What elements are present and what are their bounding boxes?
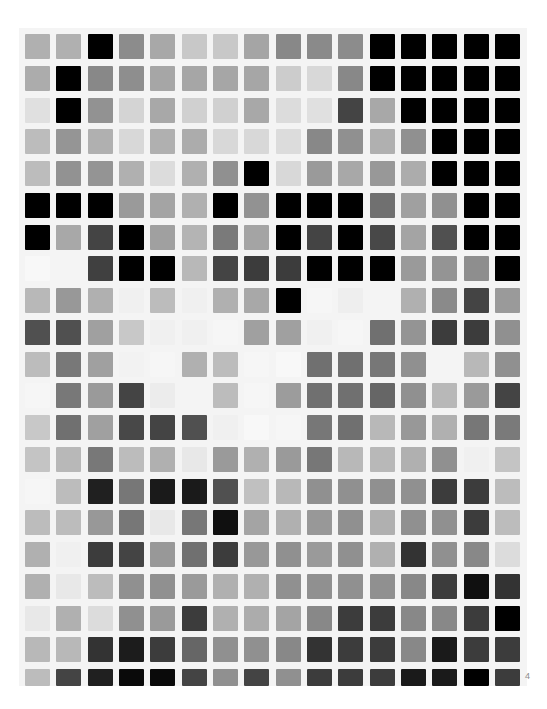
grid-cell (432, 66, 457, 91)
grid-cell (401, 637, 426, 662)
grid-cell (150, 66, 175, 91)
grid-cell (432, 288, 457, 313)
grid-cell (88, 256, 113, 281)
grid-cell (244, 161, 269, 186)
grid-cell (119, 352, 144, 377)
grid-cell (182, 510, 207, 535)
grid-cell (401, 34, 426, 59)
grid-cell (370, 606, 395, 631)
grid-cell (370, 669, 395, 686)
grid-cell (56, 98, 81, 123)
grid-cell (56, 161, 81, 186)
grid-cell (338, 225, 363, 250)
grid-cell (338, 320, 363, 345)
grid-cell (150, 34, 175, 59)
grid-cell (150, 256, 175, 281)
grid-cell (150, 637, 175, 662)
grid-cell (370, 225, 395, 250)
grid-cell (150, 415, 175, 440)
grid-cell (182, 193, 207, 218)
grid-cell (213, 161, 238, 186)
grid-cell (401, 161, 426, 186)
grid-cell (56, 542, 81, 567)
grid-cell (464, 256, 489, 281)
grid-cell (464, 129, 489, 154)
grid-cell (56, 288, 81, 313)
grid-cell (401, 225, 426, 250)
grid-cell (338, 415, 363, 440)
grid-cell (464, 34, 489, 59)
grid-cell (370, 34, 395, 59)
grid-cell (150, 352, 175, 377)
grid-cell (307, 320, 332, 345)
grid-cell (182, 225, 207, 250)
grid-cell (276, 161, 301, 186)
grid-cell (213, 510, 238, 535)
grid-cell (401, 542, 426, 567)
grid-cell (276, 98, 301, 123)
grid-cell (307, 66, 332, 91)
grid-cell (56, 320, 81, 345)
grid-cell (25, 669, 50, 686)
grid-cell (432, 193, 457, 218)
grid-cell (25, 574, 50, 599)
grid-cell (338, 510, 363, 535)
grid-cell (213, 193, 238, 218)
grid-cell (276, 320, 301, 345)
grid-cell (276, 129, 301, 154)
grid-cell (432, 479, 457, 504)
grid-cell (432, 256, 457, 281)
grid-cell (495, 352, 520, 377)
grid-cell (464, 510, 489, 535)
grid-cell (56, 606, 81, 631)
grid-cell (307, 669, 332, 686)
grid-cell (25, 510, 50, 535)
grid-cell (276, 383, 301, 408)
grid-cell (56, 479, 81, 504)
grid-cell (88, 34, 113, 59)
grid-cell (464, 574, 489, 599)
grid-cell (307, 129, 332, 154)
grid-cell (150, 510, 175, 535)
grid-cell (464, 98, 489, 123)
grid-cell (276, 542, 301, 567)
grid-cell (182, 542, 207, 567)
grid-cell (119, 415, 144, 440)
grid-cell (150, 606, 175, 631)
grid-cell (119, 225, 144, 250)
grid-cell (213, 669, 238, 686)
grid-cell (370, 256, 395, 281)
grid-cell (119, 161, 144, 186)
grid-cell (244, 288, 269, 313)
grid-cell (150, 193, 175, 218)
grid-cell (338, 193, 363, 218)
grid-cell (401, 193, 426, 218)
grid-cell (307, 161, 332, 186)
grid-cell (213, 479, 238, 504)
grid-cell (338, 606, 363, 631)
grayscale-square-grid (19, 28, 527, 686)
grid-cell (401, 383, 426, 408)
grid-cell (25, 542, 50, 567)
grid-cell (276, 574, 301, 599)
grid-cell (150, 161, 175, 186)
grid-cell (119, 129, 144, 154)
grid-cell (150, 542, 175, 567)
grid-cell (213, 352, 238, 377)
grid-cell (401, 606, 426, 631)
grid-cell (464, 542, 489, 567)
grid-cell (495, 606, 520, 631)
grid-cell (338, 479, 363, 504)
grid-cell (88, 225, 113, 250)
grid-cell (464, 66, 489, 91)
grid-cell (495, 542, 520, 567)
grid-cell (213, 66, 238, 91)
grid-cell (432, 383, 457, 408)
grid-cell (338, 352, 363, 377)
grid-cell (370, 193, 395, 218)
grid-cell (119, 606, 144, 631)
grid-cell (150, 288, 175, 313)
grid-cell (370, 542, 395, 567)
grid-cell (182, 66, 207, 91)
grid-cell (119, 669, 144, 686)
